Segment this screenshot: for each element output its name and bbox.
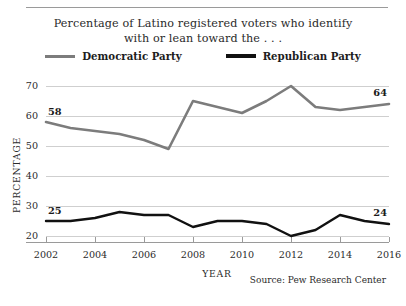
chart-svg: 203040506070 200220042006200820102012201…	[0, 0, 406, 306]
point-label-republican-party-last: 24	[373, 207, 387, 218]
chart-figure: Percentage of Latino registered voters w…	[0, 0, 406, 306]
source-note: Source: Pew Research Center	[250, 275, 386, 285]
y-tick-label-20: 20	[26, 230, 38, 241]
point-label-republican-party-first: 25	[48, 205, 62, 216]
y-tick-label-60: 60	[26, 110, 38, 121]
x-tick-label-2016: 2016	[377, 249, 401, 260]
series-line-democratic-party	[46, 86, 389, 149]
x-axis-title: YEAR	[201, 268, 232, 279]
data-series	[46, 86, 389, 236]
x-tick-label-2006: 2006	[132, 249, 156, 260]
plot-area: 203040506070 200220042006200820102012201…	[0, 0, 406, 306]
y-tick-label-50: 50	[26, 140, 38, 151]
series-line-republican-party	[46, 212, 389, 236]
y-tick-label-30: 30	[26, 200, 38, 211]
y-axis-ticks: 203040506070	[26, 80, 38, 241]
point-label-democratic-party-last: 64	[373, 87, 387, 98]
x-tick-label-2012: 2012	[279, 249, 303, 260]
x-tick-label-2004: 2004	[83, 249, 107, 260]
x-tick-label-2008: 2008	[181, 249, 205, 260]
x-axis: 20022004200620082010201220142016	[26, 237, 401, 260]
x-tick-label-2010: 2010	[230, 249, 254, 260]
point-label-democratic-party-first: 58	[48, 106, 62, 117]
y-axis-title: PERCENTAGE	[11, 137, 22, 213]
y-tick-label-40: 40	[26, 170, 38, 181]
x-tick-label-2014: 2014	[328, 249, 352, 260]
y-tick-label-70: 70	[26, 80, 38, 91]
x-tick-label-2002: 2002	[34, 249, 58, 260]
